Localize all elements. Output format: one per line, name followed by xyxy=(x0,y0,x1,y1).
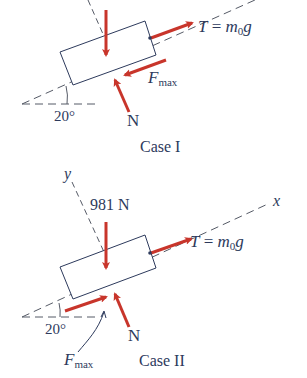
case2-y-axis-label: y xyxy=(64,165,71,183)
case2-angle-label: 20° xyxy=(45,321,66,338)
case1-angle-label: 20° xyxy=(54,108,75,125)
case2-weight-label: 981 N xyxy=(90,196,130,214)
case1-friction-label: Fmax xyxy=(148,68,177,88)
case2-normal-label: N xyxy=(128,326,140,346)
free-body-diagrams: T = m0g Fmax 20° N Case I y 981 N x T = … xyxy=(0,0,307,378)
case2-x-axis-label: x xyxy=(273,192,280,210)
case2-friction-label: Fmax xyxy=(64,350,93,370)
case2-caption: Case II xyxy=(139,352,185,370)
case1-tension-label: T = m0g xyxy=(198,17,252,37)
case1-normal-label: N xyxy=(127,111,139,131)
case1-caption: Case I xyxy=(140,138,180,156)
case2-tension-label: T = m0g xyxy=(190,232,244,252)
